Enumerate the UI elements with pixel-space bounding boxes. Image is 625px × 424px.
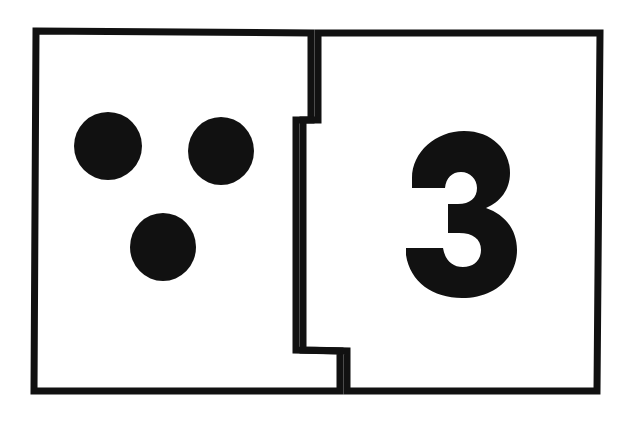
photo-canvas: 3 [0, 0, 625, 424]
flashcard-pair: 3 [0, 0, 625, 424]
numeral-group: 3 [391, 101, 525, 329]
dot-2 [188, 117, 254, 185]
dot-1 [74, 112, 142, 180]
dot-3 [130, 213, 196, 281]
